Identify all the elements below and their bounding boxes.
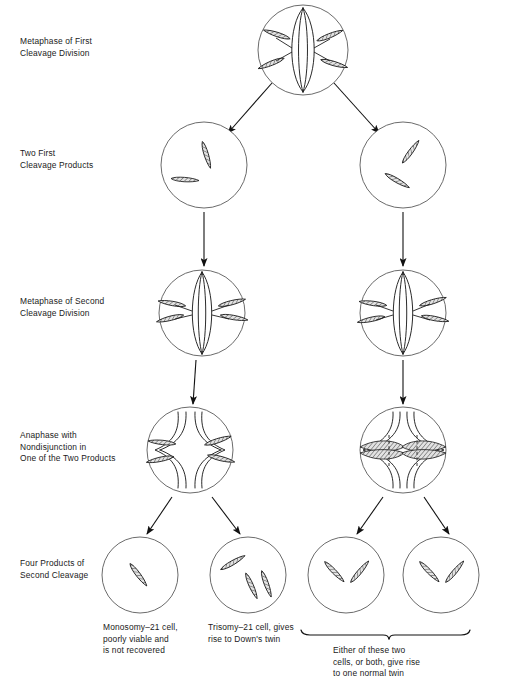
cell-membrane <box>403 537 479 613</box>
caption-monosomy: Monosomy–21 cell, poorly viable and is n… <box>103 622 178 657</box>
cell-anaphase-normal <box>360 407 446 493</box>
cell-monosomy-21 <box>102 537 178 613</box>
normal-twin-bracket <box>301 630 470 639</box>
caption-trisomy: Trisomy–21 cell, gives rise to Down's tw… <box>208 622 294 645</box>
diagram-canvas <box>102 5 479 639</box>
cell-membrane <box>161 122 247 208</box>
arrow-left-second-metaphase-to-anaphase <box>193 360 196 404</box>
arrow-to-monosomy-cell <box>147 497 172 534</box>
arrow-to-normal-cell-left <box>357 497 383 534</box>
stage-label-two-first-products: Two First Cleavage Products <box>20 148 93 171</box>
stage-label-four-products: Four Products of Second Cleavage <box>20 558 88 581</box>
cell-trisomy-21 <box>210 537 286 613</box>
arrow-to-normal-cell-right <box>424 497 449 534</box>
cell-normal-left <box>308 537 384 613</box>
caption-normal-twin: Either of these two cells, or both, give… <box>333 645 420 680</box>
arrow-to-trisomy-cell <box>212 497 240 534</box>
stage-label-metaphase-second: Metaphase of Second Cleavage Division <box>20 296 104 319</box>
cell-normal-right <box>403 537 479 613</box>
cell-membrane <box>360 270 446 356</box>
arrow-to-left-first-product <box>228 83 272 133</box>
cell-membrane <box>360 122 446 208</box>
cell-metaphase-first-cleavage <box>257 5 348 95</box>
cell-division-diagram <box>0 0 509 686</box>
stage-label-metaphase-first: Metaphase of First Cleavage Division <box>20 36 92 59</box>
cell-membrane <box>308 537 384 613</box>
stage-label-anaphase-nondisjunction: Anaphase with Nondisjunction in One of t… <box>20 430 115 465</box>
cell-first-product-right <box>360 122 446 208</box>
cell-anaphase-nondisjunction <box>146 407 235 493</box>
cell-metaphase-second-left <box>156 270 248 356</box>
cell-membrane <box>258 5 348 95</box>
arrow-to-right-first-product <box>334 83 379 133</box>
cell-first-product-left <box>161 122 247 208</box>
cell-metaphase-second-right <box>357 270 449 356</box>
cell-membrane <box>159 270 245 356</box>
